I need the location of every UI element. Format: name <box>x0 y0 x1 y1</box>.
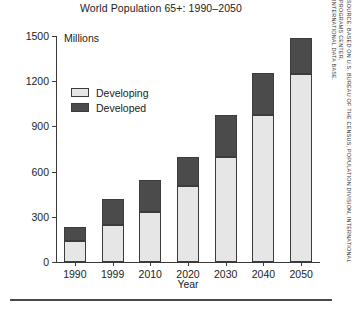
bar-group-1990[interactable] <box>64 36 86 262</box>
legend-label-developed: Developed <box>96 102 146 114</box>
y-tick-label: 300 <box>31 211 49 223</box>
bar-group-2040[interactable] <box>252 36 274 262</box>
chart-figure: World Population 65+: 1990–2050 Millions… <box>0 0 356 309</box>
legend-item-developing: Developing <box>71 85 149 100</box>
bar-segment-developed-2040[interactable] <box>252 73 274 115</box>
dark-gray-swatch-icon <box>71 103 89 112</box>
bar-group-2050[interactable] <box>290 36 312 262</box>
y-tick-label: 1500 <box>26 30 49 42</box>
bottom-divider <box>10 299 332 301</box>
y-tick-mark <box>52 217 57 218</box>
x-tick-mark-2020 <box>188 262 189 266</box>
x-tick-mark-2040 <box>263 262 264 266</box>
y-tick-mark <box>52 126 57 127</box>
y-tick-mark <box>52 81 57 82</box>
y-tick-label: 900 <box>31 120 49 132</box>
bar-group-2020[interactable] <box>177 36 199 262</box>
bar-group-2010[interactable] <box>139 36 161 262</box>
x-axis-title: Year <box>56 278 320 290</box>
x-tick-mark-2030 <box>226 262 227 266</box>
chart-title: World Population 65+: 1990–2050 <box>0 2 322 14</box>
bar-segment-developing-2050[interactable] <box>290 74 312 262</box>
light-gray-swatch-icon <box>71 88 89 97</box>
x-tick-mark-2010 <box>150 262 151 266</box>
bar-segment-developed-1999[interactable] <box>102 199 124 225</box>
bar-segment-developing-1999[interactable] <box>102 225 124 262</box>
x-tick-mark-1999 <box>113 262 114 266</box>
bar-segment-developed-1990[interactable] <box>64 227 86 241</box>
bar-segment-developed-2010[interactable] <box>139 180 161 212</box>
source-note-line-2: INTERNATIONAL DATA BASE. <box>330 0 338 286</box>
y-tick-mark <box>52 262 57 263</box>
source-note: SOURCE: BASED ON U.S. BUREAU OF THE CENS… <box>330 0 352 286</box>
y-tick-label: 0 <box>43 256 49 268</box>
bar-segment-developing-2020[interactable] <box>177 186 199 262</box>
source-note-line-1: SOURCE: BASED ON U.S. BUREAU OF THE CENS… <box>337 0 352 286</box>
legend-label-developing: Developing <box>96 87 149 99</box>
y-axis-line <box>56 36 57 263</box>
y-tick-label: 1200 <box>26 75 49 87</box>
bar-group-2030[interactable] <box>215 36 237 262</box>
chart-legend: Developing Developed <box>71 85 149 115</box>
bar-segment-developed-2050[interactable] <box>290 38 312 75</box>
bar-segment-developing-1990[interactable] <box>64 241 86 262</box>
bar-group-1999[interactable] <box>102 36 124 262</box>
bar-segment-developing-2040[interactable] <box>252 115 274 262</box>
plot-area: Millions 030060090012001500 199019992010… <box>56 36 320 262</box>
bar-segment-developed-2030[interactable] <box>215 115 237 157</box>
bar-segment-developing-2010[interactable] <box>139 212 161 262</box>
y-tick-mark <box>52 36 57 37</box>
legend-item-developed: Developed <box>71 100 149 115</box>
x-tick-mark-2050 <box>301 262 302 266</box>
x-tick-mark-1990 <box>75 262 76 266</box>
y-tick-label: 600 <box>31 166 49 178</box>
bar-segment-developing-2030[interactable] <box>215 157 237 262</box>
bar-segment-developed-2020[interactable] <box>177 157 199 186</box>
y-tick-mark <box>52 172 57 173</box>
